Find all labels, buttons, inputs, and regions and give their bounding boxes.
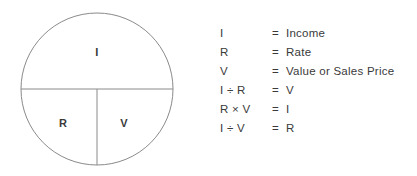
segment-label-income: I (81, 47, 113, 58)
circle-diagram-svg (0, 0, 200, 176)
legend-row: R × V = I (220, 103, 410, 122)
legend-row-equals: = (272, 122, 286, 134)
legend-row-equals: = (272, 46, 286, 58)
legend-row-equals: = (272, 65, 286, 77)
legend-row-term: R (220, 46, 272, 58)
legend-row: I ÷ V = R (220, 122, 410, 141)
segment-label-rate: R (47, 118, 79, 129)
legend-row-equals: = (272, 27, 286, 39)
legend-row-definition: R (286, 122, 410, 134)
legend-row-equals: = (272, 103, 286, 115)
legend-row-term: I (220, 27, 272, 39)
legend-row: V = Value or Sales Price (220, 65, 410, 84)
legend-row-definition: Income (286, 27, 410, 39)
legend-row-term: V (220, 65, 272, 77)
legend-row-term: R × V (220, 103, 272, 115)
legend-row: I = Income (220, 27, 410, 46)
legend-row: I ÷ R = V (220, 84, 410, 103)
legend-row-definition: I (286, 103, 410, 115)
segment-label-value: V (108, 118, 140, 129)
legend-row-equals: = (272, 84, 286, 96)
legend-row: R = Rate (220, 46, 410, 65)
legend-row-term: I ÷ R (220, 84, 272, 96)
legend-row-definition: Value or Sales Price (286, 65, 410, 77)
circle-diagram: I R V (0, 0, 200, 176)
legend-list: I = Income R = Rate V = Value or Sales P… (220, 27, 410, 141)
legend-row-term: I ÷ V (220, 122, 272, 134)
legend-row-definition: V (286, 84, 410, 96)
legend-row-definition: Rate (286, 46, 410, 58)
